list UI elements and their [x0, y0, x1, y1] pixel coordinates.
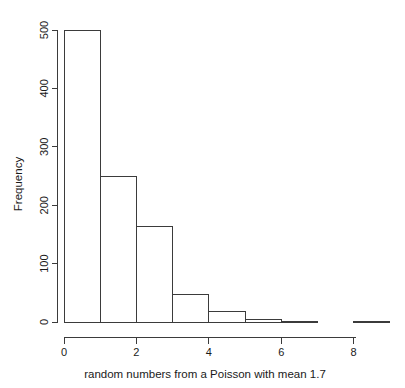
- histogram-bar: [354, 321, 390, 322]
- bars-group: [64, 30, 390, 322]
- x-axis-tick-label: 2: [133, 346, 139, 358]
- x-axis-ticks: [64, 338, 354, 344]
- histogram-bar: [100, 176, 136, 322]
- x-axis-tick-label: 4: [206, 346, 212, 358]
- histogram-plot: 0100200300400500 02468 random numbers fr…: [0, 0, 405, 388]
- x-axis-title: random numbers from a Poisson with mean …: [84, 368, 326, 380]
- x-axis-tick-label: 6: [278, 346, 284, 358]
- y-axis-tick-label: 300: [38, 138, 50, 156]
- y-axis-tick-label: 200: [38, 196, 50, 214]
- histogram-bar: [209, 312, 245, 323]
- histogram-bar: [136, 227, 172, 322]
- y-axis-tick-label: 0: [38, 319, 50, 325]
- histogram-bar: [173, 294, 209, 322]
- histogram-bar: [245, 319, 281, 322]
- x-axis-tick-labels: 02468: [61, 346, 357, 358]
- histogram-canvas: 0100200300400500 02468 random numbers fr…: [0, 0, 405, 388]
- y-axis-title: Frequency: [12, 157, 24, 212]
- x-axis: 02468: [61, 338, 357, 359]
- x-axis-tick-label: 8: [351, 346, 357, 358]
- y-axis-ticks: [52, 30, 58, 322]
- y-axis: 0100200300400500: [38, 21, 58, 325]
- histogram-bar: [281, 321, 317, 322]
- histogram-bar: [64, 30, 100, 322]
- x-axis-tick-label: 0: [61, 346, 67, 358]
- y-axis-tick-labels: 0100200300400500: [38, 21, 50, 325]
- y-axis-tick-label: 500: [38, 21, 50, 39]
- y-axis-tick-label: 100: [38, 254, 50, 272]
- y-axis-tick-label: 400: [38, 79, 50, 97]
